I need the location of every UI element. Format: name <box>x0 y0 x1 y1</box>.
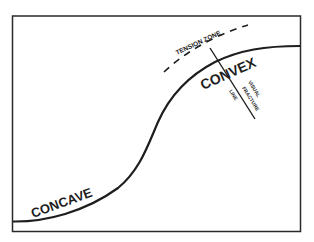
tension-zone-label: TENSION ZONE <box>174 29 222 56</box>
slope-profile-curve <box>13 46 300 222</box>
slope-diagram: CONCAVE CONVEX TENSION ZONE VISUAL FRACT… <box>0 0 314 242</box>
convex-label: CONVEX <box>198 54 259 93</box>
fracture-line-label-3: LINE <box>228 88 239 101</box>
